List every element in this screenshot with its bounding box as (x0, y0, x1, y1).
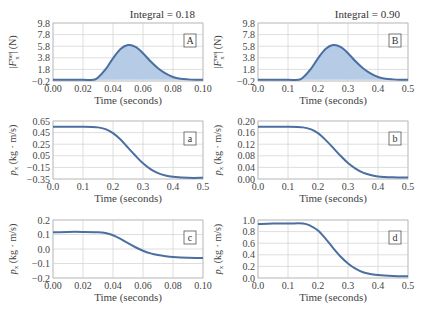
panel-A: 0.000.020.040.060.080.109.87.85.83.81.8−… (6, 8, 212, 107)
panel-b: 0.00.10.20.30.40.50.200.160.120.080.040.… (212, 116, 414, 206)
x-tick-label: 0.3 (342, 280, 355, 291)
x-tick-label: 0.1 (282, 181, 295, 192)
x-tick-label: 0.5 (402, 83, 415, 94)
x-tick-label: 0.5 (402, 181, 415, 192)
x-tick-label: 0.02 (74, 280, 92, 291)
x-tick-label: 0.5 (402, 280, 415, 291)
x-tick-label: 0.3 (137, 181, 150, 192)
panel-B: 0.00.10.20.30.40.59.87.85.83.81.8−0.2BIn… (211, 8, 414, 107)
x-tick-label: 0.1 (282, 280, 295, 291)
x-axis-label: Time (seconds) (94, 291, 162, 304)
y-tick-label: 9.8 (243, 18, 256, 29)
y-tick-label: 0.00 (238, 174, 256, 185)
y-tick-label: 7.8 (38, 29, 51, 40)
panel-tag: a (188, 133, 193, 144)
y-tick-label: 0.16 (238, 127, 256, 138)
x-tick-label: 0.4 (167, 181, 180, 192)
y-tick-label: −0.1 (32, 258, 50, 269)
data-line (258, 127, 408, 178)
y-tick-label: −0.35 (27, 174, 50, 185)
x-axis-label: Time (seconds) (299, 94, 367, 107)
plot-frame (53, 121, 203, 179)
x-tick-label: 0.4 (372, 181, 385, 192)
y-tick-label: 0.08 (238, 150, 256, 161)
x-tick-label: 0.3 (342, 83, 355, 94)
y-tick-label: 3.8 (243, 52, 256, 63)
y-tick-label: 0.65 (33, 116, 51, 127)
y-tick-label: 3.8 (38, 52, 51, 63)
y-tick-label: 0.6 (243, 238, 256, 249)
x-axis-label: Time (seconds) (94, 192, 162, 205)
y-tick-label: 1.0 (243, 215, 256, 226)
y-axis-label: px (kg · m/s) (212, 224, 225, 275)
y-tick-label: −0.2 (32, 273, 50, 284)
y-tick-label: 0.20 (238, 116, 256, 127)
area-fill (53, 45, 203, 80)
integral-label: Integral = 0.18 (130, 8, 196, 20)
x-tick-label: 0.10 (194, 280, 212, 291)
y-tick-label: 0.1 (38, 229, 51, 240)
data-line (53, 127, 203, 178)
x-tick-label: 0.2 (107, 181, 120, 192)
y-tick-label: −0.2 (32, 76, 50, 87)
x-tick-label: 0.1 (77, 181, 90, 192)
y-axis-label: px (kg · m/s) (212, 125, 225, 176)
y-tick-label: 0.05 (33, 150, 51, 161)
y-tick-label: 0.8 (243, 226, 256, 237)
x-tick-label: 0.5 (197, 181, 210, 192)
y-tick-label: 0.04 (238, 162, 256, 173)
x-tick-label: 0.3 (342, 181, 355, 192)
x-tick-label: 0.2 (312, 181, 325, 192)
x-tick-label: 0.06 (134, 83, 152, 94)
x-axis-label: Time (seconds) (299, 192, 367, 205)
panel-tag: d (393, 232, 398, 243)
x-tick-label: 0.08 (164, 280, 182, 291)
x-tick-label: 0.1 (282, 83, 295, 94)
data-line (53, 232, 203, 258)
y-tick-label: 0.0 (243, 273, 256, 284)
x-tick-label: 0.04 (104, 83, 122, 94)
y-tick-label: 5.8 (38, 41, 51, 52)
panel-tag: c (188, 232, 193, 243)
x-tick-label: 0.08 (164, 83, 182, 94)
y-tick-label: 0.2 (38, 215, 51, 226)
x-tick-label: 0.4 (372, 83, 385, 94)
y-tick-label: 0.12 (238, 139, 256, 150)
area-fill (258, 45, 408, 80)
y-axis-label: |Fnetx | (N) (211, 35, 226, 68)
x-axis-label: Time (seconds) (299, 291, 367, 304)
y-axis-label: px (kg · m/s) (7, 125, 20, 176)
y-tick-label: 7.8 (243, 29, 256, 40)
y-tick-label: 5.8 (243, 41, 256, 52)
panel-tag: A (186, 35, 194, 46)
y-tick-label: 0.4 (243, 249, 256, 260)
panel-c: 0.000.020.040.060.080.100.20.10.0−0.1−0.… (7, 215, 212, 305)
y-tick-label: 1.8 (38, 64, 51, 75)
y-tick-label: −0.15 (27, 162, 50, 173)
x-axis-label: Time (seconds) (94, 94, 162, 107)
panel-tag: b (393, 133, 398, 144)
x-tick-label: 0.2 (312, 83, 325, 94)
chart-figure: 0.000.020.040.060.080.109.87.85.83.81.8−… (0, 0, 426, 315)
panel-d: 0.00.10.20.30.40.51.00.80.60.40.20.0dTim… (212, 215, 414, 305)
x-tick-label: 0.2 (312, 280, 325, 291)
x-tick-label: 0.06 (134, 280, 152, 291)
y-tick-label: 0.25 (33, 139, 51, 150)
integral-label: Integral = 0.90 (335, 8, 401, 20)
panel-a: 0.00.10.20.30.40.50.650.450.250.05−0.15−… (7, 116, 209, 206)
y-axis-label: |Fnetx | (N) (6, 35, 21, 68)
y-tick-label: 0.2 (243, 261, 256, 272)
y-tick-label: −0.2 (237, 76, 255, 87)
y-tick-label: 9.8 (38, 18, 51, 29)
x-tick-label: 0.10 (194, 83, 212, 94)
panel-tag: B (392, 35, 399, 46)
y-tick-label: 0.0 (38, 244, 51, 255)
y-axis-label: px (kg · m/s) (7, 224, 20, 275)
y-tick-label: 1.8 (243, 64, 256, 75)
x-tick-label: 0.04 (104, 280, 122, 291)
x-tick-label: 0.4 (372, 280, 385, 291)
plot-frame (258, 121, 408, 179)
y-tick-label: 0.45 (33, 127, 51, 138)
x-tick-label: 0.02 (74, 83, 92, 94)
